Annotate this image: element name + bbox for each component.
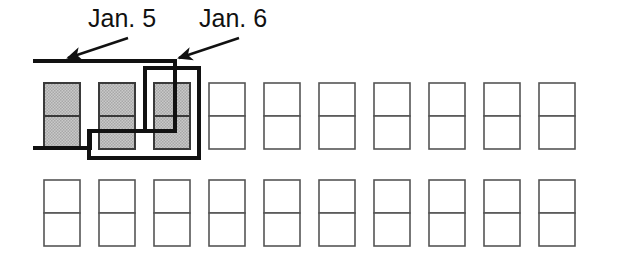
slot-cell-filled	[44, 83, 80, 116]
slot-cell-empty	[374, 180, 410, 213]
slot-unit	[319, 180, 355, 246]
slot-cell-empty	[264, 213, 300, 246]
slot-cell-empty	[264, 83, 300, 116]
slot-cell-empty	[209, 83, 245, 116]
slot-cell-empty	[319, 180, 355, 213]
slot-cell-empty	[99, 180, 135, 213]
arrow-jan5	[68, 38, 128, 58]
slot-grid	[44, 83, 575, 246]
slot-cell-empty	[44, 213, 80, 246]
slot-unit	[484, 180, 520, 246]
slot-cell-empty	[44, 180, 80, 213]
arrow-jan6	[179, 38, 239, 58]
slot-cell-empty	[539, 180, 575, 213]
slot-unit	[99, 180, 135, 246]
slot-cell-filled	[99, 83, 135, 116]
slot-cell-empty	[484, 83, 520, 116]
diagram-svg	[0, 0, 635, 257]
slot-unit	[44, 83, 80, 149]
slot-unit	[99, 83, 135, 149]
slot-cell-empty	[429, 180, 465, 213]
slot-unit	[374, 83, 410, 149]
label-jan5: Jan. 5	[88, 4, 156, 33]
slot-unit	[154, 83, 190, 149]
slot-unit	[264, 83, 300, 149]
slot-cell-empty	[319, 83, 355, 116]
slot-cell-empty	[484, 213, 520, 246]
slot-cell-filled	[154, 83, 190, 116]
slot-cell-empty	[209, 116, 245, 149]
slot-cell-empty	[154, 213, 190, 246]
slot-unit	[539, 83, 575, 149]
slot-cell-empty	[539, 83, 575, 116]
slot-unit	[264, 180, 300, 246]
slot-cell-empty	[374, 213, 410, 246]
slot-cell-empty	[154, 180, 190, 213]
slot-cell-empty	[429, 213, 465, 246]
label-jan6: Jan. 6	[199, 4, 267, 33]
slot-cell-empty	[209, 180, 245, 213]
slot-cell-empty	[539, 213, 575, 246]
slot-cell-empty	[539, 116, 575, 149]
slot-cell-empty	[429, 83, 465, 116]
slot-cell-empty	[374, 83, 410, 116]
slot-cell-empty	[264, 116, 300, 149]
slot-cell-empty	[484, 116, 520, 149]
callout-arrows	[68, 38, 239, 58]
slot-unit	[429, 83, 465, 149]
slot-unit	[429, 180, 465, 246]
slot-cell-empty	[209, 213, 245, 246]
slot-unit	[319, 83, 355, 149]
slot-unit	[374, 180, 410, 246]
slot-cell-empty	[319, 213, 355, 246]
diagram-canvas: Jan. 5 Jan. 6	[0, 0, 635, 257]
slot-unit	[539, 180, 575, 246]
slot-unit	[484, 83, 520, 149]
slot-unit	[44, 180, 80, 246]
slot-cell-empty	[264, 180, 300, 213]
slot-cell-empty	[484, 180, 520, 213]
slot-cell-empty	[319, 116, 355, 149]
slot-unit	[209, 180, 245, 246]
slot-unit	[154, 180, 190, 246]
slot-unit	[209, 83, 245, 149]
slot-cell-empty	[374, 116, 410, 149]
slot-cell-filled	[44, 116, 80, 149]
slot-cell-empty	[99, 213, 135, 246]
slot-cell-empty	[429, 116, 465, 149]
